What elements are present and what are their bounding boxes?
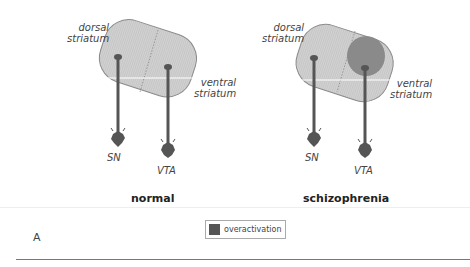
dorsal-label-line1: dorsal: [67, 22, 109, 33]
dorsal-striatum-label: dorsal striatum: [67, 22, 109, 44]
sn-label: SN: [107, 152, 121, 163]
sn-terminal-icon: [114, 54, 122, 60]
ventral-label-line1: ventral: [194, 77, 236, 88]
vta-terminal-icon: [361, 65, 369, 71]
figure-letter: A: [33, 231, 41, 244]
dorsal-striatum-label: dorsal striatum: [262, 22, 304, 44]
panel-caption: schizophrenia: [303, 192, 389, 205]
striatum-shape: [93, 13, 203, 103]
legend: overactivation: [205, 220, 286, 239]
sn-terminal-icon: [310, 55, 318, 61]
dorsal-label-line2: striatum: [262, 33, 304, 44]
vta-label: VTA: [354, 165, 373, 176]
vta-neuron-icon: [358, 142, 372, 158]
vta-neuron-icon: [161, 142, 175, 158]
panel-divider: [0, 207, 470, 208]
panel-caption: normal: [131, 192, 174, 205]
ventral-label-line2: striatum: [194, 88, 236, 99]
overactivation-swatch-icon: [209, 224, 220, 235]
ventral-striatum-label: ventral striatum: [390, 78, 432, 100]
sn-label: SN: [305, 152, 319, 163]
bottom-rule: [16, 259, 470, 260]
sn-neuron-icon: [307, 131, 321, 147]
ventral-striatum-label: ventral striatum: [194, 77, 236, 99]
sn-neuron-icon: [111, 131, 125, 147]
vta-terminal-icon: [164, 64, 172, 70]
striatum-diagram-normal: [0, 0, 235, 207]
dorsal-label-line2: striatum: [67, 33, 109, 44]
vta-label: VTA: [157, 165, 176, 176]
ventral-label-line2: striatum: [390, 89, 432, 100]
panel-schizophrenia: dorsal striatum ventral striatum SN VTA …: [235, 0, 470, 207]
panel-normal: dorsal striatum ventral striatum SN VTA …: [0, 0, 235, 207]
legend-label: overactivation: [224, 225, 281, 234]
ventral-label-line1: ventral: [390, 78, 432, 89]
dorsal-label-line1: dorsal: [262, 22, 304, 33]
